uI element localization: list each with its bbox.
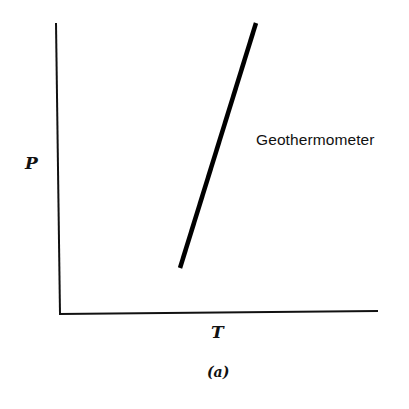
- geothermometer-label: Geothermometer: [256, 132, 375, 148]
- y-axis: [56, 23, 60, 314]
- y-axis-label: P: [25, 155, 38, 172]
- pt-diagram: P T Geothermometer (a): [0, 0, 409, 409]
- figure-caption: (a): [207, 365, 229, 379]
- x-axis-label: T: [211, 324, 224, 341]
- geothermometer-line: [180, 23, 256, 268]
- diagram-canvas: [0, 0, 409, 409]
- x-axis: [59, 311, 378, 314]
